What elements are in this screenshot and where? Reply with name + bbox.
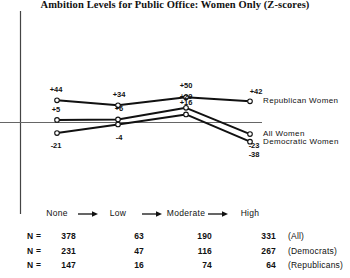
n-value-cell: 147 [44,260,76,270]
data-point-label: -21 [45,141,67,150]
data-point-label: +44 [45,85,67,94]
n-group-label: (Democrats) [288,246,337,256]
series-democratic-women [55,112,253,144]
data-point-label: +50 [175,81,197,90]
data-point-marker [116,122,121,127]
n-value-cell: 378 [44,231,76,241]
x-category-high: High [226,208,274,218]
data-point-marker [55,98,60,103]
data-point-marker [55,118,60,123]
n-value-cell: 16 [112,260,144,270]
series-line [57,97,250,105]
series-line [57,114,250,141]
n-group-label: (Republicans) [288,260,343,270]
x-category-moderate: Moderate [162,208,210,218]
n-value-cell: 116 [180,246,212,256]
series-label-democratic-women: Democratic Women [263,137,339,146]
arrow-right-icon [141,209,163,219]
n-prefix-label: N = [27,260,41,270]
n-value-cell: 47 [112,246,144,256]
n-value-cell: 190 [180,231,212,241]
chart-container: Ambition Levels for Public Office: Women… [0,0,350,278]
sample-size-table: N =37863190331(All)N =23147116267(Democr… [0,231,350,275]
n-value-cell: 231 [44,246,76,256]
data-point-label: +16 [175,98,197,107]
series-label-republican-women: Republican Women [263,96,338,105]
data-point-label: +6 [108,104,130,113]
data-point-marker [248,132,253,137]
n-value-cell: 63 [112,231,144,241]
data-point-marker [116,117,121,122]
data-point-label: +34 [108,90,130,99]
n-value-cell: 64 [244,260,276,270]
n-value-cell: 267 [244,246,276,256]
table-row: N =147167464(Republicans) [0,260,350,275]
series-republican-women [55,95,253,108]
n-prefix-label: N = [27,246,41,256]
series-all-women [55,106,253,137]
data-point-label: +42 [245,87,267,96]
data-point-marker [55,131,60,136]
data-point-marker [248,99,253,104]
x-category-strip: NoneLowModerateHigh [0,208,350,230]
n-value-cell: 331 [244,231,276,241]
x-category-low: Low [94,208,142,218]
table-row: N =37863190331(All) [0,231,350,246]
table-row: N =23147116267(Democrats) [0,246,350,261]
n-prefix-label: N = [27,231,41,241]
x-category-none: None [33,208,81,218]
data-point-label: -38 [243,150,265,159]
series-layer [55,95,253,144]
data-point-label: +5 [45,105,67,114]
n-value-cell: 74 [180,260,212,270]
n-group-label: (All) [288,231,304,241]
data-point-marker [184,112,189,117]
data-point-label: -4 [108,133,130,142]
